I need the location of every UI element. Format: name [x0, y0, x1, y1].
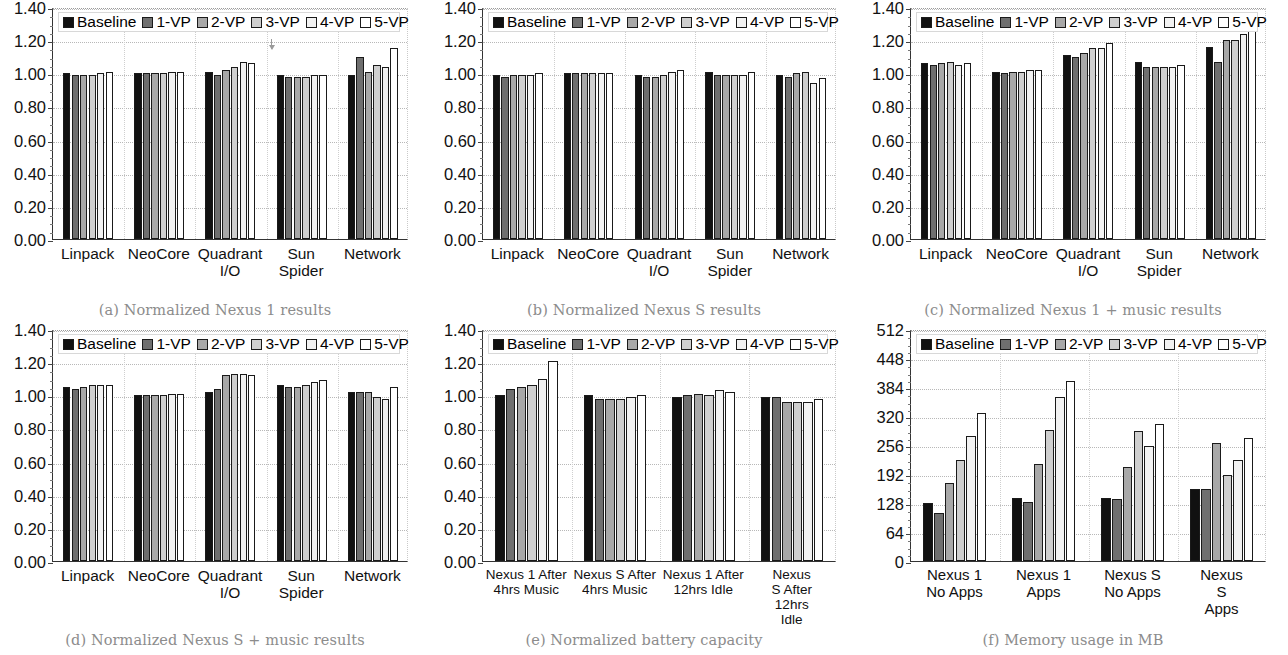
- y-minor-tick: [908, 338, 911, 339]
- legend-item-4-vp[interactable]: 4-VP: [1164, 14, 1212, 30]
- legend-item-1-vp[interactable]: 1-VP: [142, 14, 190, 30]
- legend-item-3-vp[interactable]: 3-VP: [1109, 14, 1157, 30]
- bar: [382, 67, 389, 239]
- plot-area-a: [52, 8, 408, 240]
- legend-item-baseline[interactable]: Baseline: [63, 14, 136, 30]
- legend-item-2-vp[interactable]: 2-VP: [627, 336, 675, 352]
- legend-item-3-vp[interactable]: 3-VP: [251, 336, 299, 352]
- group-separator: [1196, 9, 1197, 239]
- y-minor-tick: [50, 406, 53, 407]
- bar: [715, 390, 724, 561]
- x-axis-label: Nexus S After 12hrs Idle: [770, 567, 814, 627]
- y-tick-mark: [906, 360, 911, 361]
- plot-area-d: [52, 330, 408, 562]
- legend-swatch-icon: [681, 339, 692, 350]
- bar: [977, 413, 986, 561]
- legend-item-3-vp[interactable]: 3-VP: [681, 14, 729, 30]
- legend-label: 1-VP: [586, 336, 620, 352]
- bar: [319, 380, 326, 561]
- legend-item-3-vp[interactable]: 3-VP: [681, 336, 729, 352]
- legend-item-1-vp[interactable]: 1-VP: [572, 14, 620, 30]
- y-minor-tick: [50, 133, 53, 134]
- legend-item-1-vp[interactable]: 1-VP: [1000, 336, 1048, 352]
- legend-item-5-vp[interactable]: 5-VP: [360, 336, 408, 352]
- legend-label: 1-VP: [586, 14, 620, 30]
- y-minor-tick: [908, 125, 911, 126]
- bar: [672, 397, 681, 561]
- legend-item-5-vp[interactable]: 5-VP: [790, 14, 838, 30]
- legend-item-4-vp[interactable]: 4-VP: [306, 336, 354, 352]
- y-axis-label: 1.00: [444, 66, 476, 83]
- y-axis-label: 1.40: [444, 0, 476, 16]
- bar: [938, 63, 945, 239]
- legend-item-baseline[interactable]: Baseline: [921, 336, 994, 352]
- bar: [80, 387, 87, 561]
- legend-item-3-vp[interactable]: 3-VP: [1109, 336, 1157, 352]
- y-minor-tick: [50, 117, 53, 118]
- legend-item-4-vp[interactable]: 4-VP: [736, 336, 784, 352]
- legend-item-baseline[interactable]: Baseline: [493, 336, 566, 352]
- legend-item-3-vp[interactable]: 3-VP: [251, 14, 299, 30]
- legend-item-2-vp[interactable]: 2-VP: [1055, 14, 1103, 30]
- y-tick-mark: [906, 108, 911, 109]
- legend-item-2-vp[interactable]: 2-VP: [197, 336, 245, 352]
- bar: [776, 75, 783, 239]
- bar: [1240, 34, 1247, 239]
- legend-item-4-vp[interactable]: 4-VP: [1164, 336, 1212, 352]
- bar: [1063, 55, 1070, 239]
- bar: [1072, 57, 1079, 239]
- legend-swatch-icon: [142, 339, 153, 350]
- bar: [1160, 67, 1167, 239]
- y-axis-label: 0.40: [14, 165, 46, 182]
- bar: [143, 395, 150, 561]
- y-tick-mark: [478, 142, 483, 143]
- y-minor-tick: [480, 555, 483, 556]
- legend-item-2-vp[interactable]: 2-VP: [627, 14, 675, 30]
- y-minor-tick: [480, 348, 483, 349]
- gridline: [53, 9, 407, 10]
- bar: [643, 77, 650, 239]
- y-axis-label: 0.60: [14, 454, 46, 471]
- bar: [348, 75, 355, 239]
- legend-item-1-vp[interactable]: 1-VP: [572, 336, 620, 352]
- y-minor-tick: [50, 538, 53, 539]
- legend-item-5-vp[interactable]: 5-VP: [790, 336, 838, 352]
- y-minor-tick: [50, 100, 53, 101]
- bar: [725, 392, 734, 561]
- bar: [595, 399, 604, 561]
- bar: [1012, 498, 1021, 561]
- y-minor-tick: [908, 433, 911, 434]
- legend-label: 3-VP: [1123, 14, 1157, 30]
- y-minor-tick: [908, 382, 911, 383]
- y-minor-tick: [908, 527, 911, 528]
- y-minor-tick: [908, 50, 911, 51]
- legend-item-5-vp[interactable]: 5-VP: [1218, 336, 1266, 352]
- y-tick-mark: [906, 476, 911, 477]
- legend-item-4-vp[interactable]: 4-VP: [306, 14, 354, 30]
- legend-swatch-icon: [1218, 17, 1229, 28]
- legend-item-baseline[interactable]: Baseline: [63, 336, 136, 352]
- y-axis-label: 384: [876, 380, 904, 397]
- y-axis-label: 1.40: [14, 322, 46, 339]
- y-tick-mark: [906, 389, 911, 390]
- legend-item-baseline[interactable]: Baseline: [493, 14, 566, 30]
- legend-item-1-vp[interactable]: 1-VP: [142, 336, 190, 352]
- panel-e: 0.000.200.400.600.801.001.201.40Nexus 1 …: [430, 320, 858, 650]
- y-minor-tick: [480, 447, 483, 448]
- legend-item-4-vp[interactable]: 4-VP: [736, 14, 784, 30]
- legend-item-5-vp[interactable]: 5-VP: [360, 14, 408, 30]
- legend-item-baseline[interactable]: Baseline: [921, 14, 994, 30]
- y-axis-label: 0.80: [14, 421, 46, 438]
- legend-item-1-vp[interactable]: 1-VP: [1000, 14, 1048, 30]
- panel-b: 0.000.200.400.600.801.001.201.40LinpackN…: [430, 0, 858, 320]
- legend-item-2-vp[interactable]: 2-VP: [1055, 336, 1103, 352]
- bar: [1106, 43, 1113, 239]
- y-minor-tick: [908, 34, 911, 35]
- legend-item-2-vp[interactable]: 2-VP: [197, 14, 245, 30]
- annotation-arrow-icon: [271, 39, 272, 49]
- y-minor-tick: [908, 491, 911, 492]
- bar: [143, 73, 150, 239]
- y-tick-mark: [478, 9, 483, 10]
- y-tick-mark: [478, 175, 483, 176]
- legend-item-5-vp[interactable]: 5-VP: [1218, 14, 1266, 30]
